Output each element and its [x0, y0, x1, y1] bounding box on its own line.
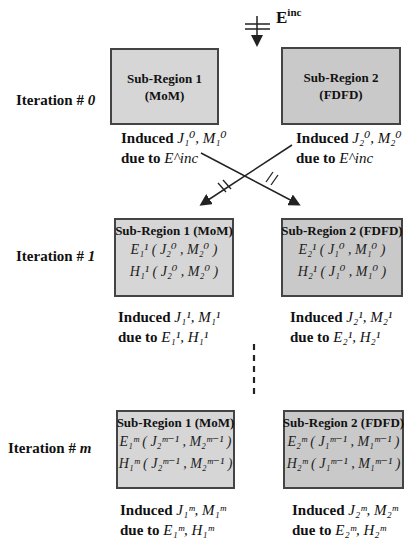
h-field-equation: H₂¹ ( J₁⁰ , M₁⁰ )	[298, 261, 386, 283]
incident-field-superscript: inc	[287, 6, 301, 18]
source-field: E₂¹, H₂¹	[333, 329, 380, 345]
iteration-0-induced-1: Induced J₁⁰, M₁⁰ due to E^inc	[121, 128, 226, 168]
subregion-1-method: (MoM)	[145, 87, 185, 104]
induced-currents: J₂⁰, M₂⁰	[352, 130, 401, 146]
h-field-equation: H₁¹ ( J₂⁰ , M₂⁰ )	[130, 261, 218, 283]
subregion-2-method: (FDFD)	[319, 86, 362, 103]
source-field: E₁¹, H₁¹	[161, 329, 208, 345]
iteration-0-subregion-2: Sub-Region 2 (FDFD)	[281, 47, 401, 125]
iteration-1-induced-2: Induced J₂¹, M₂¹ due to E₂¹, H₂¹	[290, 307, 392, 347]
due-to-word: due to	[290, 329, 330, 345]
iteration-index: m	[80, 440, 92, 456]
subregion-2-title: Sub-Region 2	[304, 69, 379, 86]
h-field-equation: H₂ᵐ ( J₁ᵐ⁻¹ , M₁ᵐ⁻¹ )	[287, 453, 401, 475]
induced-currents: J₂¹, M₂¹	[346, 309, 392, 325]
induced-currents: J₁ᵐ, M₁ᵐ	[176, 502, 226, 518]
induced-currents: J₁⁰, M₁⁰	[177, 130, 226, 146]
subregion-1-title: Sub-Region 1	[127, 70, 202, 87]
induced-word: Induced	[120, 502, 173, 518]
iteration-1-label: Iteration # 1	[16, 248, 95, 265]
iteration-m-subregion-2: Sub-Region 2 (FDFD) E₂ᵐ ( J₁ᵐ⁻¹ , M₁ᵐ⁻¹ …	[283, 410, 404, 489]
subregion-2-title: Sub-Region 2 (FDFD)	[283, 414, 404, 431]
subregion-2-title: Sub-Region 2 (FDFD)	[281, 222, 402, 239]
iteration-1-subregion-2: Sub-Region 2 (FDFD) E₂¹ ( J₁⁰ , M₁⁰ ) H₂…	[281, 218, 403, 297]
e-field-equation: E₂¹ ( J₁⁰ , M₁⁰ )	[299, 239, 386, 261]
iteration-m-induced-1: Induced J₁ᵐ, M₁ᵐ due to E₁ᵐ, H₁ᵐ	[120, 500, 226, 540]
e-field-equation: E₁¹ ( J₂⁰ , M₂⁰ )	[131, 239, 218, 261]
induced-currents: J₂ᵐ, M₂ᵐ	[348, 502, 398, 518]
iteration-m-label: Iteration # m	[8, 440, 91, 457]
due-to-word: due to	[118, 329, 158, 345]
iteration-prefix: Iteration #	[16, 248, 88, 264]
induced-word: Induced	[121, 130, 174, 146]
subregion-1-title: Sub-Region 1 (MoM)	[117, 414, 235, 431]
due-to-word: due to	[120, 522, 160, 538]
iteration-m-induced-2: Induced J₂ᵐ, M₂ᵐ due to E₂ᵐ, H₂ᵐ	[292, 500, 398, 540]
iteration-1-induced-1: Induced J₁¹, M₁¹ due to E₁¹, H₁¹	[118, 307, 220, 347]
incident-field-arrow	[245, 16, 270, 44]
source-field: E^inc	[164, 150, 198, 166]
source-field: E^inc	[339, 150, 373, 166]
incident-field-label: Einc	[276, 6, 301, 28]
iteration-m-subregion-1: Sub-Region 1 (MoM) E₁ᵐ ( J₂ᵐ⁻¹ , M₂ᵐ⁻¹ )…	[116, 410, 235, 489]
iteration-0-subregion-1: Sub-Region 1 (MoM)	[110, 48, 219, 125]
incident-field-symbol: E	[276, 8, 287, 27]
iteration-index: 0	[88, 92, 96, 108]
induced-word: Induced	[118, 309, 171, 325]
source-field: E₂ᵐ, H₂ᵐ	[335, 522, 385, 538]
iteration-prefix: Iteration #	[8, 440, 80, 456]
due-to-word: due to	[296, 150, 336, 166]
induced-word: Induced	[290, 309, 343, 325]
due-to-word: due to	[121, 150, 161, 166]
iteration-index: 1	[88, 248, 96, 264]
source-field: E₁ᵐ, H₁ᵐ	[163, 522, 213, 538]
iteration-0-induced-2: Induced J₂⁰, M₂⁰ due to E^inc	[296, 128, 401, 168]
e-field-equation: E₂ᵐ ( J₁ᵐ⁻¹ , M₁ᵐ⁻¹ )	[287, 431, 399, 453]
induced-currents: J₁¹, M₁¹	[174, 309, 220, 325]
e-field-equation: E₁ᵐ ( J₂ᵐ⁻¹ , M₂ᵐ⁻¹ )	[119, 431, 231, 453]
subregion-1-title: Sub-Region 1 (MoM)	[115, 222, 233, 239]
induced-word: Induced	[296, 130, 349, 146]
iteration-0-label: Iteration # 0	[16, 92, 95, 109]
induced-word: Induced	[292, 502, 345, 518]
iteration-1-subregion-1: Sub-Region 1 (MoM) E₁¹ ( J₂⁰ , M₂⁰ ) H₁¹…	[114, 218, 234, 297]
due-to-word: due to	[292, 522, 332, 538]
h-field-equation: H₁ᵐ ( J₂ᵐ⁻¹ , M₂ᵐ⁻¹ )	[119, 453, 233, 475]
iteration-prefix: Iteration #	[16, 92, 88, 108]
